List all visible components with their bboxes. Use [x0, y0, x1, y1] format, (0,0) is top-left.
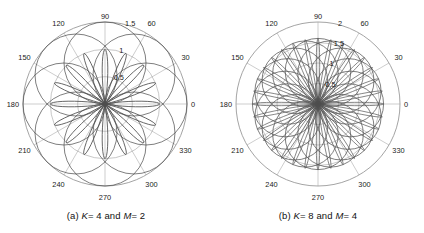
- angle-tick-label: 150: [18, 53, 30, 62]
- angle-tick-label: 300: [145, 180, 157, 189]
- lobe-20: [272, 104, 318, 150]
- polar-plot-a: 03060901201501802102402703003300.511.5: [0, 0, 212, 200]
- polar-axes-b: 03060901201501802102402703003300.511.52: [212, 0, 424, 200]
- polar-data: [252, 38, 383, 169]
- panel-b: 03060901201501802102402703003300.511.52 …: [212, 0, 424, 233]
- angle-tick-label: 90: [101, 12, 109, 21]
- angle-tick-label: 180: [220, 100, 232, 109]
- angle-tick-label: 30: [394, 53, 402, 62]
- radial-tick-label: 2: [338, 19, 342, 28]
- angle-tick-label: 90: [314, 12, 322, 21]
- polar-plot-b: 03060901201501802102402703003300.511.52: [212, 0, 424, 200]
- angle-tick-label: 270: [312, 193, 324, 200]
- panel-b-caption: (b) K= 8 and M= 4: [212, 210, 424, 221]
- angle-tick-label: 270: [99, 193, 111, 200]
- angle-tick-label: 150: [231, 53, 243, 62]
- angle-tick-label: 0: [404, 100, 408, 109]
- angle-tick-label: 330: [179, 146, 191, 155]
- radial-tick-label: 0.5: [114, 73, 124, 82]
- panel-a: 03060901201501802102402703003300.511.5 (…: [0, 0, 212, 233]
- panel-a-caption: (a) K= 4 and M= 2: [0, 210, 212, 221]
- caption-a-prefix: (a): [67, 210, 79, 221]
- caption-b-m-value: = 4: [343, 210, 357, 221]
- polar-labels: 03060901201501802102402703003300.511.5: [7, 12, 195, 200]
- caption-b-k-value: = 8: [300, 210, 314, 221]
- angle-tick-label: 300: [358, 180, 370, 189]
- angle-tick-label: 120: [265, 19, 277, 28]
- angle-tick-label: 210: [231, 146, 243, 155]
- caption-b-and: and: [316, 210, 332, 221]
- caption-a-k-value: = 4: [88, 210, 102, 221]
- polar-axes-a: 03060901201501802102402703003300.511.5: [0, 0, 212, 200]
- radial-tick-label: 1.5: [125, 19, 135, 28]
- caption-b-prefix: (b): [279, 210, 291, 221]
- angle-tick-label: 30: [181, 53, 189, 62]
- angle-tick-label: 210: [18, 146, 30, 155]
- angle-tick-label: 240: [265, 180, 277, 189]
- angle-tick-label: 60: [360, 19, 368, 28]
- radial-tick-label: 1: [330, 59, 334, 68]
- lobe-12: [272, 58, 318, 104]
- caption-a-and: and: [104, 210, 120, 221]
- lobe-28: [318, 104, 364, 150]
- angle-tick-label: 330: [392, 146, 404, 155]
- angle-tick-label: 240: [52, 180, 64, 189]
- radial-tick-label: 1.5: [334, 39, 344, 48]
- caption-a-m-value: = 2: [131, 210, 145, 221]
- polar-data: [23, 22, 187, 186]
- angle-tick-label: 0: [191, 100, 195, 109]
- angle-tick-label: 60: [147, 19, 155, 28]
- radial-tick-label: 1: [119, 46, 123, 55]
- angle-tick-label: 120: [52, 19, 64, 28]
- radial-tick-label: 0.5: [325, 80, 335, 89]
- polar-figure: 03060901201501802102402703003300.511.5 (…: [0, 0, 424, 233]
- angle-tick-label: 180: [7, 100, 19, 109]
